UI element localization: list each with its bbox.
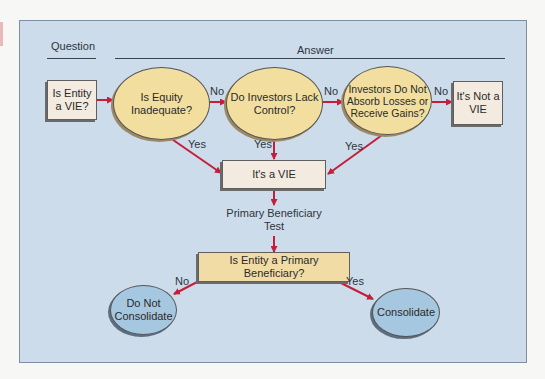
consolidate-node: Consolidate <box>372 288 440 337</box>
is-vie-node: It's a VIE <box>222 160 326 189</box>
edge-label-q3-yes: Yes <box>345 140 363 152</box>
edge-label-pb-no: No <box>175 275 189 287</box>
start-node: Is Entity a VIE? <box>47 80 97 120</box>
edge-label-q1-no: No <box>210 85 224 97</box>
do-not-consolidate-node: Do Not Consolidate <box>110 285 177 335</box>
edge-label-q2-no: No <box>324 85 338 97</box>
edge-label-q2-yes: Yes <box>254 138 272 150</box>
not-vie-node: It's Not a VIE <box>453 81 503 125</box>
equity-inadequate-node: Is Equity Inadequate? <box>113 67 210 140</box>
primary-beneficiary-test-label: Primary Beneficiary Test <box>224 207 324 233</box>
edge-label-pb-yes: Yes <box>346 275 364 287</box>
absorb-losses-node: Investors Do Not Absorb Losses or Receiv… <box>343 66 432 135</box>
lack-control-node: Do Investors Lack Control? <box>226 67 323 140</box>
edge-label-q1-yes: Yes <box>188 138 206 150</box>
arrows-layer <box>0 0 545 379</box>
primary-beneficiary-question-node: Is Entity a Primary Beneficiary? <box>198 252 350 282</box>
edge-label-q3-no: No <box>434 85 448 97</box>
